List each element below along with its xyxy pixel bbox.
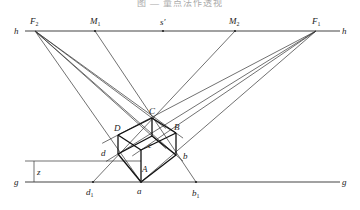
label-lines.ground_label_left: g	[14, 177, 19, 187]
f2-ray-b-bottom	[35, 31, 183, 161]
label-points.B: B	[174, 122, 180, 132]
point-d1-marker	[92, 181, 94, 183]
label-points.s_prime: s′	[160, 17, 167, 27]
label-points.A: A	[141, 164, 148, 174]
point-M2-marker	[234, 30, 236, 32]
label-M1: M1	[89, 16, 101, 27]
m1-measure-line	[95, 31, 196, 182]
f2-ray-b-top	[35, 31, 183, 138]
perspective-diagram: F2M1s′M2F1hhggzCDBcdbAad1b1	[0, 0, 360, 210]
label-lines.height_label: z	[36, 167, 41, 177]
label-points.D: D	[113, 123, 121, 133]
label-points.C: C	[149, 106, 156, 116]
label-points.b: b	[183, 151, 188, 161]
point-M1-marker	[94, 30, 96, 32]
label-b1: b1	[192, 188, 200, 199]
label-lines.horizon_label_left: h	[14, 26, 19, 36]
label-M2: M2	[228, 16, 240, 27]
label-points.d: d	[101, 148, 106, 158]
f1-ray-a	[141, 31, 316, 182]
point-b1-marker	[195, 181, 197, 183]
label-lines.horizon_label_right: h	[342, 26, 347, 36]
label-lines.ground_label_right: g	[342, 177, 347, 187]
label-d1: d1	[86, 187, 94, 198]
point-a-marker	[140, 181, 142, 183]
f1-ray-a-top	[132, 31, 316, 156]
m2-measure-line	[93, 31, 235, 182]
f1-ray-d-bottom	[106, 31, 316, 161]
point-s_prime-marker	[162, 30, 164, 32]
box-edge-d-a	[118, 154, 141, 182]
label-F2: F2	[29, 16, 39, 27]
label-F1: F1	[311, 16, 321, 27]
label-points.c: c	[148, 140, 152, 150]
f2-ray-a	[35, 31, 141, 182]
label-points.a: a	[137, 186, 142, 196]
